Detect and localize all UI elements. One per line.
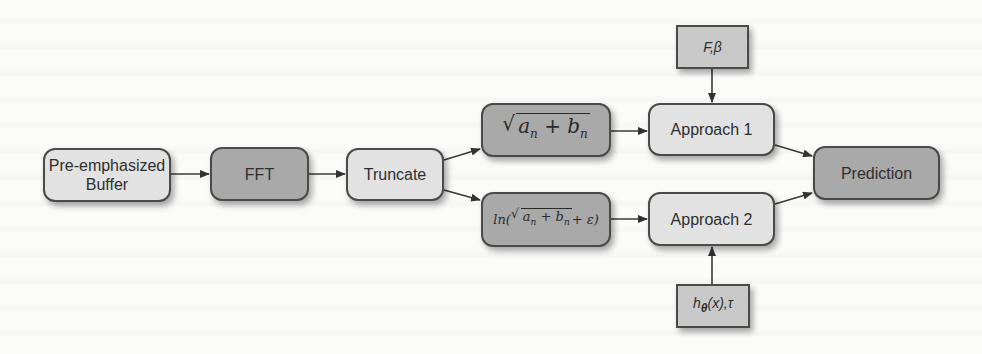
sqrt-expression: an + bn bbox=[511, 207, 572, 232]
node-truncate: Truncate bbox=[346, 148, 444, 201]
node-params-h-theta-tau: hθ(x),τ bbox=[676, 284, 750, 328]
node-prediction-label: Prediction bbox=[841, 164, 912, 183]
node-buffer-line1: Pre-emphasized bbox=[49, 156, 166, 175]
node-magnitude-formula: an + bn bbox=[481, 103, 611, 157]
epsilon-suffix: + ε) bbox=[572, 210, 599, 229]
theta-sub: θ bbox=[701, 301, 708, 315]
var-b: b bbox=[556, 209, 564, 224]
h-rest: (x),τ bbox=[708, 295, 733, 311]
var-a: a bbox=[518, 114, 530, 138]
node-params2-label: hθ(x),τ bbox=[693, 294, 733, 318]
sub-n: n bbox=[580, 127, 588, 141]
node-params1-label: F,β bbox=[703, 38, 722, 57]
h-var: h bbox=[693, 295, 701, 311]
node-truncate-label: Truncate bbox=[364, 165, 427, 184]
edge-truncate-magnitude bbox=[444, 149, 480, 160]
sub-n: n bbox=[564, 217, 570, 227]
plus: + bbox=[538, 114, 567, 138]
node-fft-label: FFT bbox=[245, 165, 274, 184]
node-pre-emphasized-buffer: Pre-emphasized Buffer bbox=[43, 148, 171, 202]
edge-approach2-prediction bbox=[775, 193, 812, 204]
edge-approach1-prediction bbox=[775, 145, 812, 156]
node-approach2-label: Approach 2 bbox=[671, 210, 753, 229]
node-approach-2: Approach 2 bbox=[648, 192, 775, 246]
node-params-f-beta: F,β bbox=[676, 25, 749, 69]
var-b: b bbox=[567, 114, 580, 138]
edge-truncate-logmagnitude bbox=[444, 190, 480, 200]
ln-prefix: ln( bbox=[493, 210, 511, 229]
var-a: a bbox=[523, 209, 531, 224]
node-log-magnitude-formula: ln(an + bn + ε) bbox=[481, 192, 611, 247]
node-approach1-label: Approach 1 bbox=[671, 120, 753, 139]
node-prediction: Prediction bbox=[813, 146, 940, 200]
node-fft: FFT bbox=[210, 147, 309, 201]
plus: + bbox=[536, 209, 555, 224]
sqrt-expression: an + bn bbox=[502, 117, 590, 144]
sub-n: n bbox=[530, 127, 538, 141]
node-approach-1: Approach 1 bbox=[648, 103, 775, 156]
node-buffer-line2: Buffer bbox=[86, 175, 128, 194]
